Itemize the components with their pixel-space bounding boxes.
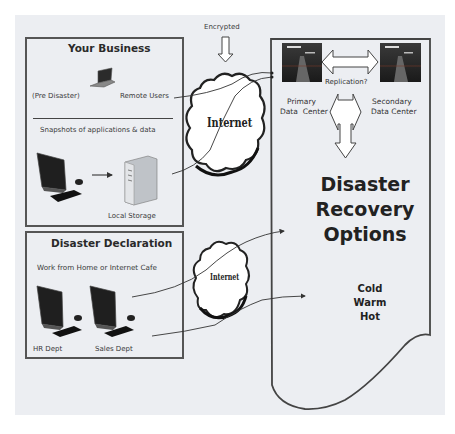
disaster-declaration-title: Disaster Declaration bbox=[51, 237, 172, 249]
local-storage-label: Local Storage bbox=[108, 212, 156, 220]
replication-label: Replication? bbox=[325, 78, 367, 86]
hr-dept-label: HR Dept bbox=[33, 345, 62, 353]
option-hot: Hot bbox=[330, 310, 410, 324]
remote-users-label: Remote Users bbox=[120, 92, 169, 100]
work-from-home-label: Work from Home or Internet Cafe bbox=[37, 263, 157, 272]
secondary-dc-line2: Data Center bbox=[371, 107, 417, 116]
primary-dc-line1: Primary bbox=[287, 97, 316, 106]
pre-disaster-label: (Pre Disaster) bbox=[32, 92, 80, 100]
recovery-title-line-1: Disaster bbox=[300, 172, 430, 197]
sales-dept-label: Sales Dept bbox=[95, 345, 133, 353]
internet-label-lower: Internet bbox=[210, 272, 239, 282]
recovery-options-list: Cold Warm Hot bbox=[330, 282, 410, 324]
internet-label-upper: Internet bbox=[207, 115, 252, 130]
divider bbox=[33, 118, 173, 119]
your-business-title: Your Business bbox=[68, 42, 151, 54]
encrypted-label: Encrypted bbox=[204, 23, 240, 31]
secondary-dc-line1: Secondary bbox=[372, 97, 412, 106]
recovery-title: Disaster Recovery Options bbox=[300, 172, 430, 247]
recovery-title-line-3: Options bbox=[300, 222, 430, 247]
option-warm: Warm bbox=[330, 296, 410, 310]
option-cold: Cold bbox=[330, 282, 410, 296]
snapshots-label: Snapshots of applications & data bbox=[40, 126, 156, 134]
recovery-title-line-2: Recovery bbox=[300, 197, 430, 222]
disaster-declaration-box bbox=[25, 231, 184, 359]
primary-dc-line2: Data Center bbox=[280, 107, 328, 116]
